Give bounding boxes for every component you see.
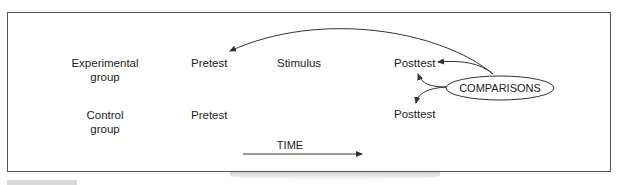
arc-to-pretest-arrow: [230, 29, 493, 74]
stimulus-label: Stimulus: [277, 56, 321, 70]
control-group-label: Control group: [70, 108, 140, 136]
group-label-line1: Control: [70, 108, 140, 122]
arrow-comparisons-up: [418, 74, 447, 87]
ctrl-posttest-label: Posttest: [394, 107, 436, 121]
time-label: TIME: [270, 138, 310, 152]
ctrl-pretest-label: Pretest: [191, 108, 227, 122]
comparisons-label: COMPARISONS: [446, 81, 554, 95]
group-label-line2: group: [70, 122, 140, 136]
group-label-line2: group: [70, 70, 140, 84]
exp-posttest-label: Posttest: [394, 56, 436, 70]
arrow-to-ctrl-posttest: [416, 87, 447, 103]
exp-pretest-label: Pretest: [191, 56, 227, 70]
group-label-line1: Experimental: [70, 56, 140, 70]
experimental-group-label: Experimental group: [70, 56, 140, 84]
